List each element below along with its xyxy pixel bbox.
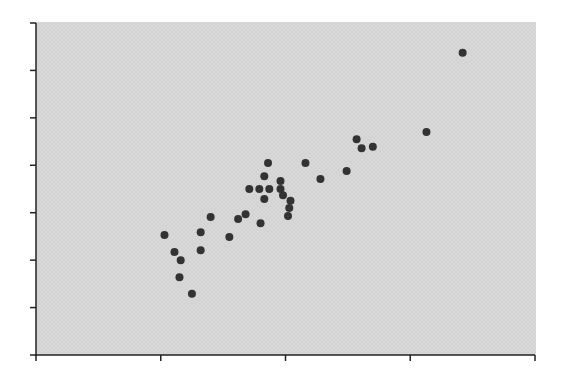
data-point xyxy=(353,135,361,143)
data-point xyxy=(301,159,309,167)
data-point xyxy=(255,185,263,193)
data-point xyxy=(197,228,205,236)
data-point xyxy=(459,49,467,57)
data-point xyxy=(369,143,377,151)
data-point xyxy=(245,185,253,193)
data-point xyxy=(260,172,268,180)
data-point xyxy=(264,159,272,167)
data-point xyxy=(207,213,215,221)
scatter-chart xyxy=(0,0,564,376)
data-point xyxy=(422,128,430,136)
data-point xyxy=(177,256,185,264)
data-point xyxy=(188,290,196,298)
data-point xyxy=(242,210,250,218)
data-point xyxy=(234,215,242,223)
data-point xyxy=(160,231,168,239)
data-point xyxy=(175,273,183,281)
x-axis-ticks xyxy=(36,355,535,361)
data-point xyxy=(225,233,233,241)
data-point xyxy=(284,212,292,220)
plot-area xyxy=(36,22,536,355)
data-point xyxy=(260,195,268,203)
data-point xyxy=(286,197,294,205)
data-point xyxy=(197,246,205,254)
data-point xyxy=(279,191,287,199)
data-point xyxy=(265,185,273,193)
y-axis-ticks xyxy=(30,23,36,355)
data-point xyxy=(285,204,293,212)
data-point xyxy=(170,248,178,256)
data-point xyxy=(316,175,324,183)
data-point xyxy=(277,177,285,185)
data-point xyxy=(343,167,351,175)
data-point xyxy=(358,144,366,152)
data-point xyxy=(257,219,265,227)
